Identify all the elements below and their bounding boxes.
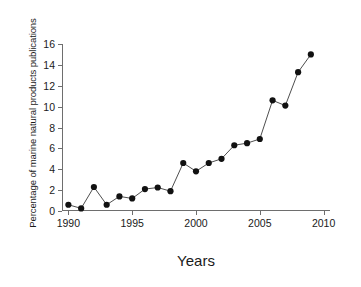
x-tick-2000 bbox=[196, 211, 197, 215]
data-point bbox=[142, 186, 148, 192]
y-tick-label-12: 12 bbox=[43, 80, 55, 92]
x-tick-label-2000: 2000 bbox=[184, 217, 207, 229]
x-tick-1995 bbox=[132, 211, 133, 215]
data-point bbox=[295, 69, 301, 75]
x-tick-label-2005: 2005 bbox=[248, 217, 271, 229]
data-point bbox=[180, 160, 186, 166]
data-point bbox=[282, 102, 288, 108]
data-point bbox=[257, 136, 263, 142]
chart-figure: Percentage of marine natural products pu… bbox=[0, 0, 361, 287]
x-axis-title: Years bbox=[62, 252, 330, 269]
y-tick-label-14: 14 bbox=[43, 59, 55, 71]
data-point bbox=[65, 202, 71, 208]
data-point bbox=[116, 193, 122, 199]
y-tick-label-2: 2 bbox=[49, 184, 55, 196]
data-point bbox=[206, 160, 212, 166]
y-tick-label-10: 10 bbox=[43, 101, 55, 113]
data-point bbox=[244, 140, 250, 146]
data-point bbox=[193, 168, 199, 174]
data-point bbox=[231, 142, 237, 148]
y-tick-label-4: 4 bbox=[49, 163, 55, 175]
data-point bbox=[91, 184, 97, 190]
x-tick-label-1995: 1995 bbox=[121, 217, 144, 229]
data-line bbox=[68, 54, 310, 208]
data-point bbox=[129, 195, 135, 201]
x-tick-label-2010: 2010 bbox=[312, 217, 335, 229]
x-tick-2010 bbox=[324, 211, 325, 215]
x-tick-2005 bbox=[260, 211, 261, 215]
y-tick-label-0: 0 bbox=[49, 205, 55, 217]
x-tick-label-1990: 1990 bbox=[57, 217, 80, 229]
data-point bbox=[308, 51, 314, 57]
data-point bbox=[218, 156, 224, 162]
y-tick-label-8: 8 bbox=[49, 122, 55, 134]
x-tick-1990 bbox=[68, 211, 69, 215]
data-point bbox=[167, 188, 173, 194]
data-point bbox=[78, 205, 84, 211]
y-tick-0 bbox=[58, 211, 62, 212]
data-point-group bbox=[65, 51, 314, 211]
data-point bbox=[104, 202, 110, 208]
y-axis-title: Percentage of marine natural products pu… bbox=[24, 0, 42, 248]
plot-area: 0246810121416 19901995200020052010 bbox=[62, 44, 330, 211]
y-tick-label-16: 16 bbox=[43, 38, 55, 50]
data-series bbox=[62, 44, 330, 211]
data-point bbox=[269, 97, 275, 103]
data-point bbox=[155, 184, 161, 190]
y-tick-label-6: 6 bbox=[49, 142, 55, 154]
